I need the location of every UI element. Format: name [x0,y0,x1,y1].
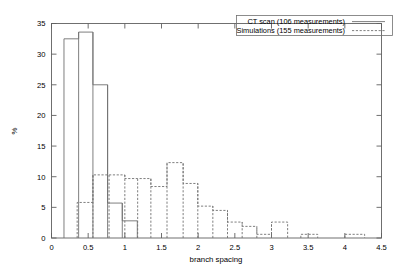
legend-label-ct-scan: CT scan (106 measurements) [247,17,345,26]
x-tick-label: 4 [343,243,347,252]
y-tick-label: 0 [41,234,45,243]
x-tick-label: 1.5 [156,243,167,252]
x-tick-label: 2.5 [230,243,241,252]
x-tick-label: 3.5 [303,243,314,252]
x-tick-label: 2 [196,243,200,252]
histogram-chart: 05101520253035 00.511.522.533.544.5 bran… [0,0,403,270]
legend-label-simulations: Simulations (155 measurements) [237,26,345,35]
x-tick-label: 0.5 [83,243,94,252]
x-axis-tick-labels: 00.511.522.533.544.5 [49,243,386,252]
x-axis-ticks [52,24,382,239]
y-tick-label: 30 [37,50,45,59]
x-tick-label: 3 [269,243,273,252]
y-tick-label: 15 [37,142,45,151]
x-tick-label: 4.5 [376,243,387,252]
legend: CT scan (106 measurements) Simulations (… [237,16,393,36]
y-tick-label: 10 [37,173,45,182]
y-tick-label: 35 [37,19,45,28]
y-tick-label: 20 [37,111,45,120]
plot-canvas: 05101520253035 00.511.522.533.544.5 bran… [0,0,403,270]
y-tick-label: 5 [41,203,45,212]
y-tick-label: 25 [37,81,45,90]
y-axis-tick-labels: 05101520253035 [37,19,45,243]
y-axis-title: % [10,127,19,134]
series-ct-scan-outline [64,32,137,238]
y-axis-ticks [52,24,382,239]
x-tick-label: 1 [123,243,127,252]
series-simulations-outline [77,163,364,238]
x-tick-label: 0 [49,243,53,252]
x-axis-title: branch spacing [190,255,243,264]
plot-frame [52,24,382,239]
